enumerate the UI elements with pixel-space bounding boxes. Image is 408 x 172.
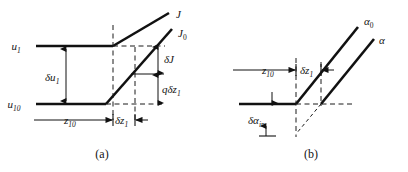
delta-alpha-in-label: δαin	[248, 114, 265, 129]
q-delta-z1-label-subscript: 1	[177, 89, 181, 98]
u1-label-subscript: 1	[17, 46, 21, 55]
alpha-curve-dashed-extension	[296, 104, 321, 134]
z10-label: z10	[63, 114, 76, 129]
q-delta-z1-label: qδz1	[162, 83, 181, 98]
u10-label-subscript: 10	[13, 104, 21, 113]
z10-label-subscript: 10	[68, 120, 76, 129]
panel-b: δαin z10 δz1 α0 α (b)	[233, 15, 385, 161]
delta-alpha-in-label-subscript: in	[259, 120, 265, 129]
delta-z1-label-b-subscript: 1	[309, 70, 313, 79]
J0-curve-label: J0	[178, 27, 187, 42]
delta-u1-label-subscript: 1	[56, 77, 60, 86]
technical-diagram: u1 u10 δu1 δJ qδz1 z10 δz1 J J0 (a)	[0, 0, 408, 172]
alpha-curve-label: α	[379, 34, 385, 46]
alpha0-curve-label: α0	[364, 15, 374, 30]
J-curve-label: J	[176, 8, 182, 20]
u10-label: u10	[8, 98, 21, 113]
delta-J-label: δJ	[164, 53, 175, 65]
alpha0-curve-label-subscript: 0	[370, 21, 374, 30]
panel-a: u1 u10 δu1 δJ qδz1 z10 δz1 J J0 (a)	[8, 8, 187, 161]
J0-curve-label-subscript: 0	[183, 33, 187, 42]
delta-z1-label-subscript: 1	[124, 120, 128, 129]
delta-u1-label: δu1	[45, 71, 59, 86]
z10-label-b-subscript: 10	[266, 70, 274, 79]
figure-root: u1 u10 δu1 δJ qδz1 z10 δz1 J J0 (a)	[0, 0, 408, 172]
panel-a-caption: (a)	[95, 147, 108, 161]
alpha-curve	[321, 39, 374, 104]
delta-z1-label-b: δz1	[300, 64, 313, 79]
panel-b-caption: (b)	[304, 147, 318, 161]
u1-label: u1	[11, 40, 20, 55]
z10-label-b: z10	[261, 64, 274, 79]
delta-z1-label: δz1	[115, 114, 128, 129]
